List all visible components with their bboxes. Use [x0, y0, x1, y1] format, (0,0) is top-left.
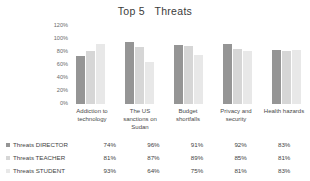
data-value-cell: 74%: [88, 141, 132, 148]
y-axis-tick-label: 40%: [57, 74, 68, 80]
data-value-cell: 89%: [175, 154, 219, 161]
data-value-cell: 83%: [262, 141, 306, 148]
bar: [194, 55, 203, 104]
legend-row[interactable]: Threats STUDENT93%64%75%81%83%: [6, 164, 306, 177]
bar: [125, 42, 134, 104]
data-value-row: 74%96%91%92%83%: [88, 141, 306, 148]
data-value-cell: 96%: [132, 141, 176, 148]
bar-group: [266, 26, 306, 104]
chart-container: Top 5 Threats 120%100%80%60%40%20%0% Add…: [0, 0, 310, 181]
legend-swatch-icon: [6, 143, 10, 147]
legend-row[interactable]: Threats TEACHER81%87%89%85%81%: [6, 151, 306, 164]
legend-label: Threats DIRECTOR: [13, 141, 68, 148]
plot-area: [70, 26, 306, 104]
bar: [233, 49, 242, 104]
data-value-row: 81%87%89%85%81%: [88, 154, 306, 161]
legend-entry[interactable]: Threats STUDENT: [6, 167, 88, 174]
bar: [292, 50, 301, 104]
y-axis-tick-label: 80%: [57, 48, 68, 54]
data-value-cell: 85%: [219, 154, 263, 161]
bar: [135, 47, 144, 104]
bar: [243, 51, 252, 104]
bar-group: [168, 26, 208, 104]
data-value-cell: 81%: [88, 154, 132, 161]
bar: [282, 51, 291, 104]
bar-group: [70, 26, 110, 104]
data-value-cell: 81%: [219, 167, 263, 174]
bar-group: [217, 26, 257, 104]
bar: [272, 50, 281, 104]
y-axis-tick-label: 60%: [57, 61, 68, 67]
legend-entry[interactable]: Threats DIRECTOR: [6, 141, 88, 148]
data-value-cell: 83%: [262, 167, 306, 174]
bar: [145, 62, 154, 104]
bar: [223, 44, 232, 104]
y-axis: 120%100%80%60%40%20%0%: [40, 22, 68, 108]
category-label: Budget shortfalls: [166, 107, 210, 131]
y-axis-tick-label: 0%: [60, 100, 68, 106]
data-value-cell: 92%: [219, 141, 263, 148]
bar-groups: [70, 26, 306, 104]
category-label: Addiction to technology: [70, 107, 114, 131]
bar-group: [119, 26, 159, 104]
legend-data-table: Threats DIRECTOR74%96%91%92%83%Threats T…: [6, 138, 306, 177]
legend-entry[interactable]: Threats TEACHER: [6, 154, 88, 161]
data-value-row: 93%64%75%81%83%: [88, 167, 306, 174]
legend-swatch-icon: [6, 169, 10, 173]
legend-label: Threats TEACHER: [13, 154, 65, 161]
category-axis-labels: Addiction to technologyThe US sanctions …: [70, 107, 306, 131]
legend-label: Threats STUDENT: [13, 167, 65, 174]
y-axis-tick-label: 20%: [57, 87, 68, 93]
data-value-cell: 91%: [175, 141, 219, 148]
chart-title: Top 5 Threats: [0, 5, 310, 17]
bar: [86, 51, 95, 104]
y-axis-tick-label: 100%: [54, 35, 68, 41]
data-value-cell: 87%: [132, 154, 176, 161]
bar: [76, 56, 85, 104]
legend-swatch-icon: [6, 156, 10, 160]
bar: [184, 46, 193, 104]
category-label: Health hazards: [262, 107, 306, 131]
data-value-cell: 81%: [262, 154, 306, 161]
y-axis-tick-label: 120%: [54, 22, 68, 28]
bar: [174, 45, 183, 104]
data-value-cell: 64%: [132, 167, 176, 174]
data-value-cell: 93%: [88, 167, 132, 174]
legend-row[interactable]: Threats DIRECTOR74%96%91%92%83%: [6, 138, 306, 151]
bar: [96, 44, 105, 104]
category-label: The US sanctions on Sudan: [118, 107, 162, 131]
category-label: Privacy and security: [214, 107, 258, 131]
data-value-cell: 75%: [175, 167, 219, 174]
